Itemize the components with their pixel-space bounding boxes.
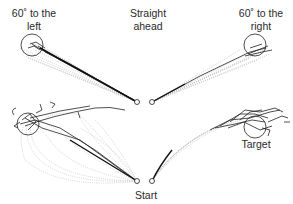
label-60-left-line1: 60˚ to the <box>4 7 64 20</box>
panel-top-right <box>150 34 273 105</box>
target-circle <box>244 34 266 56</box>
label-60-left-line2: left <box>4 20 64 33</box>
target-circle <box>244 116 266 138</box>
label-60-right-line2: right <box>229 20 293 33</box>
start-ring <box>150 100 155 105</box>
start-ring <box>150 179 155 184</box>
panel-bottom-left <box>12 102 139 184</box>
label-target: Target <box>233 138 279 151</box>
start-ring <box>135 100 140 105</box>
label-60-right-line1: 60˚ to the <box>229 7 293 20</box>
label-straight-line1: Straight <box>118 7 178 20</box>
target-circle <box>21 34 43 56</box>
label-straight-line2: ahead <box>118 20 178 33</box>
label-start: Start <box>124 189 168 202</box>
label-straight-ahead: Straight ahead <box>118 7 178 33</box>
label-60-right: 60˚ to the right <box>229 7 293 33</box>
panel-top-left <box>20 34 140 105</box>
start-ring <box>135 179 140 184</box>
label-60-left: 60˚ to the left <box>4 7 64 33</box>
